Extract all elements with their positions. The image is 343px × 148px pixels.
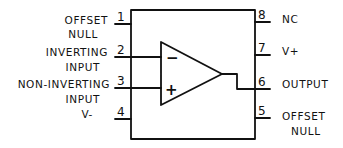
pin-5-number: 5 (258, 104, 266, 118)
noninverting-sign: + (165, 81, 178, 99)
opamp-pinout-diagram: − + 1 2 3 4 8 7 6 5 OFFSET NULL INVERTIN… (0, 0, 343, 148)
pin-2-number: 2 (117, 43, 125, 57)
pin-1-label-line2: NULL (68, 28, 98, 40)
pin-2-label: INVERTING (46, 46, 108, 58)
output-wire (222, 74, 255, 89)
inverting-sign: − (166, 49, 179, 67)
pin-5-label: OFFSET (282, 110, 325, 122)
pin-4-label: V- (81, 108, 93, 120)
pin-3-label: NON-INVERTING (18, 78, 110, 90)
pin-7-label: V+ (282, 45, 299, 57)
pin-8-number: 8 (258, 8, 266, 22)
pin-7-number: 7 (258, 41, 266, 55)
pin-3-label-line2: INPUT (66, 93, 100, 105)
pin-8-label: NC (282, 13, 298, 25)
diagram-canvas: − + 1 2 3 4 8 7 6 5 OFFSET NULL INVERTIN… (0, 0, 343, 148)
pin-4-number: 4 (117, 105, 125, 119)
pin-3-number: 3 (117, 74, 125, 88)
pin-5-label-line2: NULL (291, 125, 321, 137)
pin-1-label: OFFSET (65, 14, 108, 26)
pin-6-number: 6 (258, 75, 266, 89)
pin-2-label-line2: INPUT (66, 61, 100, 73)
pin-6-label: OUTPUT (282, 78, 328, 90)
pin-1-number: 1 (117, 10, 125, 24)
